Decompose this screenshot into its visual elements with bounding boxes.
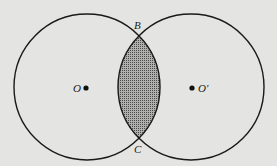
center-point-o xyxy=(83,85,88,90)
label-o-prime: O' xyxy=(198,82,209,94)
center-point-o-prime xyxy=(189,85,194,90)
label-o: O xyxy=(73,82,81,94)
venn-diagram: O O' B C xyxy=(0,0,277,166)
label-c: C xyxy=(134,143,142,155)
label-b: B xyxy=(134,19,141,31)
